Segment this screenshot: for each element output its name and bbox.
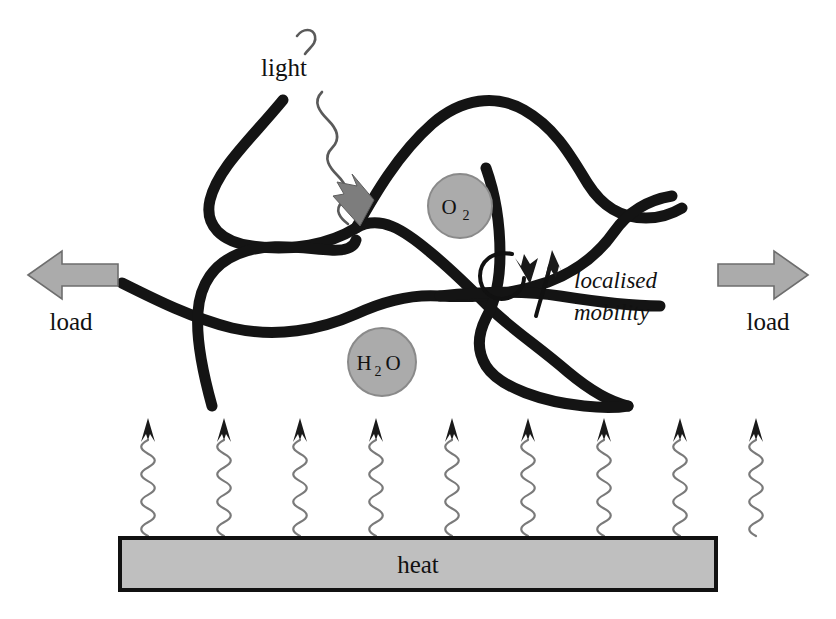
light-label: light xyxy=(261,54,307,81)
water-subscript: 2 xyxy=(375,364,382,379)
heat-bar-group: heat xyxy=(120,538,716,590)
heat-arrow-group xyxy=(141,418,763,536)
heat-squiggle xyxy=(293,440,307,536)
diagram-root: light O 2 H 2 O localised mobility xyxy=(0,0,836,619)
water-label-o: O xyxy=(385,351,400,375)
load-right-group: load xyxy=(718,251,808,335)
heat-arrowhead xyxy=(369,418,383,442)
heat-arrowhead xyxy=(673,418,687,442)
localised-mobility-line2: mobility xyxy=(574,300,650,325)
localised-mobility-line1: localised xyxy=(574,268,658,293)
heat-squiggle xyxy=(749,440,763,536)
molecule-oxygen: O 2 xyxy=(428,174,492,238)
heat-arrowhead xyxy=(749,418,763,442)
heat-squiggle xyxy=(445,440,459,536)
load-left-arrow[interactable] xyxy=(28,251,118,299)
oxygen-circle xyxy=(428,174,492,238)
light-squiggle-upper xyxy=(297,30,315,54)
heat-arrowhead xyxy=(217,418,231,442)
load-left-label: load xyxy=(49,308,93,335)
water-label-h: H xyxy=(356,351,371,375)
polymer-degradation-diagram: light O 2 H 2 O localised mobility xyxy=(0,0,836,619)
oxygen-subscript: 2 xyxy=(463,208,470,223)
heat-squiggle xyxy=(597,440,611,536)
heat-squiggle xyxy=(217,440,231,536)
load-right-arrow[interactable] xyxy=(718,251,808,299)
load-left-group: load xyxy=(28,251,118,335)
heat-arrowhead xyxy=(521,418,535,442)
heat-squiggle xyxy=(521,440,535,536)
load-right-label: load xyxy=(746,308,790,335)
oxygen-label: O xyxy=(441,195,456,219)
heat-arrowhead xyxy=(141,418,155,442)
heat-arrowhead xyxy=(597,418,611,442)
heat-squiggle xyxy=(141,440,155,536)
rotation-loop-arrowhead xyxy=(515,254,538,284)
heat-squiggle xyxy=(673,440,687,536)
heat-arrowhead xyxy=(445,418,459,442)
light-annotation: light xyxy=(261,30,374,226)
heat-arrowhead xyxy=(293,418,307,442)
molecule-water: H 2 O xyxy=(348,328,416,396)
heat-squiggle xyxy=(369,440,383,536)
heat-label: heat xyxy=(397,551,439,578)
